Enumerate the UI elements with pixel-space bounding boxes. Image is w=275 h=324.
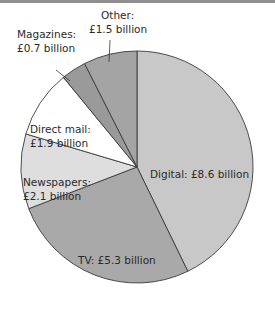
label-magazines-line1: Magazines:: [17, 28, 76, 40]
label-other-line1: Other:: [101, 9, 134, 21]
label-magazines-line2: £0.7 billion: [17, 42, 75, 54]
label-direct-mail-line1: Direct mail:: [30, 123, 91, 135]
label-tv: TV: £5.3 billion: [77, 254, 156, 266]
label-newspapers-line1: Newspapers:: [23, 176, 91, 188]
label-newspapers-line2: £2.1 billion: [23, 190, 81, 202]
pie-chart: Digital: £8.6 billion TV: £5.3 billion N…: [0, 0, 275, 324]
label-digital: Digital: £8.6 billion: [150, 168, 249, 180]
label-other-line2: £1.5 billion: [89, 23, 147, 35]
label-direct-mail-line2: £1.9 billion: [30, 137, 88, 149]
pie-slices: [21, 51, 253, 283]
